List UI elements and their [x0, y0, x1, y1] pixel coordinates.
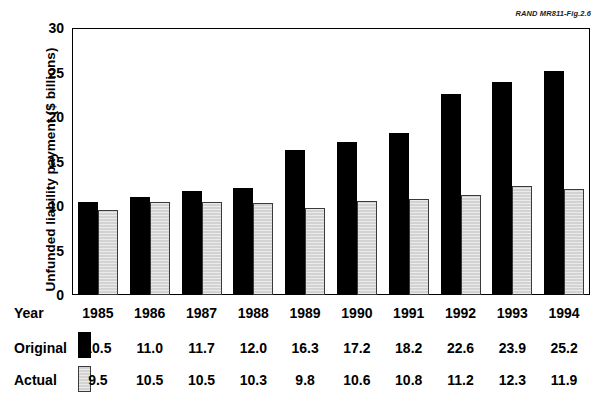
bar-original-1989 — [285, 150, 305, 295]
table-row-label-actual: Actual — [14, 372, 57, 388]
bar-original-1990 — [337, 142, 357, 295]
y-axis-tick-label: 30 — [22, 19, 64, 37]
bar-original-1988 — [233, 188, 253, 295]
y-axis-tick-label: 15 — [22, 153, 64, 171]
y-axis-tick-label: 10 — [22, 197, 64, 215]
bar-actual-1985 — [98, 210, 118, 295]
data-table: Year Original Actual 198510.59.5198611.0… — [0, 296, 615, 405]
table-cell-original-1994: 25.2 — [534, 340, 594, 356]
bar-original-1993 — [492, 82, 512, 295]
source-credit-label: RAND MR811-Fig.2.6 — [516, 9, 591, 18]
y-axis-tick-label: 20 — [22, 108, 64, 126]
table-row-label-original: Original — [14, 340, 67, 356]
table-cell-year-1994: 1994 — [534, 305, 594, 321]
bar-original-1987 — [182, 191, 202, 295]
table-row-label-year: Year — [14, 305, 44, 321]
bar-actual-1988 — [253, 203, 273, 295]
bar-actual-1992 — [461, 195, 481, 295]
table-cell-actual-1994: 11.9 — [534, 372, 594, 388]
bar-actual-1994 — [564, 189, 584, 295]
bar-actual-1993 — [512, 186, 532, 295]
bar-actual-1990 — [357, 201, 377, 295]
bar-actual-1986 — [150, 202, 170, 295]
bar-original-1985 — [78, 202, 98, 295]
y-axis-tick-label: 5 — [22, 242, 64, 260]
bar-original-1992 — [441, 94, 461, 295]
bar-actual-1991 — [409, 199, 429, 295]
bar-actual-1987 — [202, 202, 222, 295]
bar-original-1994 — [544, 71, 564, 295]
bars-layer — [72, 28, 590, 295]
bar-original-1991 — [389, 133, 409, 295]
bar-original-1986 — [130, 197, 150, 295]
figure-bar-chart: RAND MR811-Fig.2.6 Unfunded liability pa… — [0, 0, 615, 405]
y-axis-tick-label: 25 — [22, 64, 64, 82]
bar-actual-1989 — [305, 208, 325, 295]
